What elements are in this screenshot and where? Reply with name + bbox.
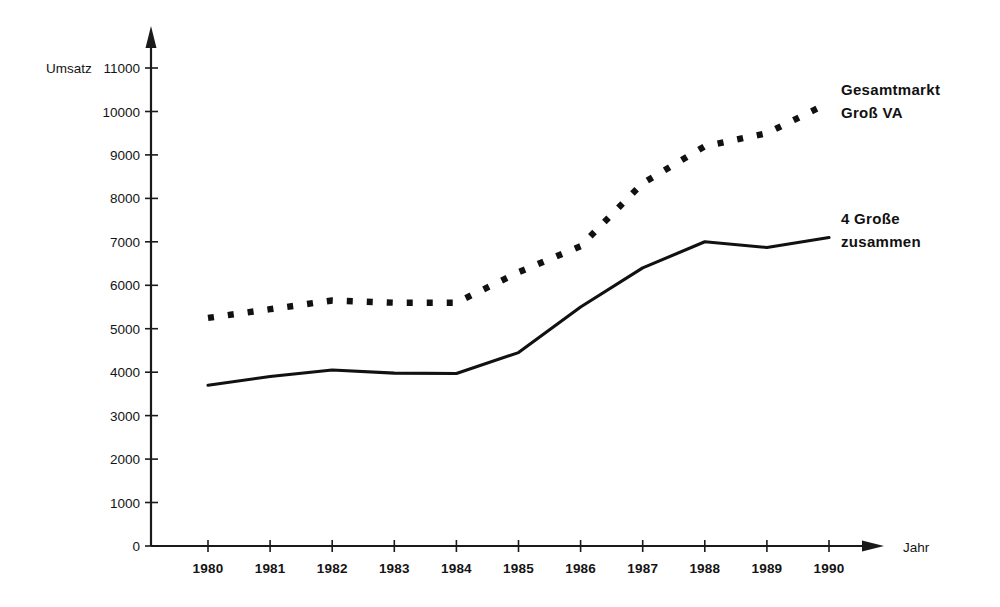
y-tick-label: 7000 bbox=[110, 235, 140, 250]
x-tick-label: 1984 bbox=[441, 561, 472, 576]
legend-label-line2: zusammen bbox=[841, 233, 921, 250]
x-tick-label: 1987 bbox=[627, 561, 658, 576]
series-line-4-grosse-zusammen bbox=[208, 238, 829, 386]
y-tick-label: 6000 bbox=[110, 278, 140, 293]
y-tick-label: 8000 bbox=[110, 191, 140, 206]
y-tick-label: 4000 bbox=[110, 365, 140, 380]
x-axis-arrow-icon bbox=[862, 541, 884, 552]
series-line-gesamtmarkt-gross-va bbox=[208, 103, 829, 318]
legend-label-line2: Groß VA bbox=[841, 104, 903, 121]
legend-gesamtmarkt-gross-va: Gesamtmarkt Groß VA bbox=[841, 81, 940, 121]
y-tick-label: 3000 bbox=[110, 409, 140, 424]
chart-container: 0 1000 2000 3000 4000 5000 6000 7000 800… bbox=[0, 0, 1000, 607]
x-tick-label: 1983 bbox=[379, 561, 410, 576]
line-chart: 0 1000 2000 3000 4000 5000 6000 7000 800… bbox=[0, 0, 1000, 607]
legend-4-grosse-zusammen: 4 Große zusammen bbox=[841, 210, 921, 250]
x-tick-label: 1985 bbox=[503, 561, 534, 576]
y-axis-arrow-icon bbox=[146, 26, 157, 48]
x-tick-label: 1988 bbox=[689, 561, 720, 576]
x-axis-tick-labels: 1980 1981 1982 1983 1984 1985 1986 1987 … bbox=[193, 561, 845, 576]
y-axis-title: Umsatz bbox=[46, 61, 92, 76]
y-tick-label: 11000 bbox=[103, 61, 140, 76]
x-tick-label: 1980 bbox=[193, 561, 224, 576]
x-axis-title: Jahr bbox=[903, 540, 930, 555]
y-tick-label: 1000 bbox=[110, 496, 140, 511]
y-tick-label: 10000 bbox=[102, 105, 140, 120]
y-tick-label: 0 bbox=[132, 539, 140, 554]
legend-label-line1: Gesamtmarkt bbox=[841, 81, 940, 98]
x-tick-label: 1986 bbox=[565, 561, 596, 576]
y-tick-label: 2000 bbox=[110, 452, 140, 467]
x-tick-label: 1990 bbox=[814, 561, 845, 576]
x-tick-label: 1989 bbox=[751, 561, 782, 576]
x-tick-label: 1981 bbox=[255, 561, 286, 576]
legend-label-line1: 4 Große bbox=[841, 210, 900, 227]
y-axis-tick-labels: 0 1000 2000 3000 4000 5000 6000 7000 800… bbox=[102, 61, 140, 554]
y-tick-label: 5000 bbox=[110, 322, 140, 337]
y-tick-label: 9000 bbox=[110, 148, 140, 163]
x-tick-label: 1982 bbox=[317, 561, 348, 576]
